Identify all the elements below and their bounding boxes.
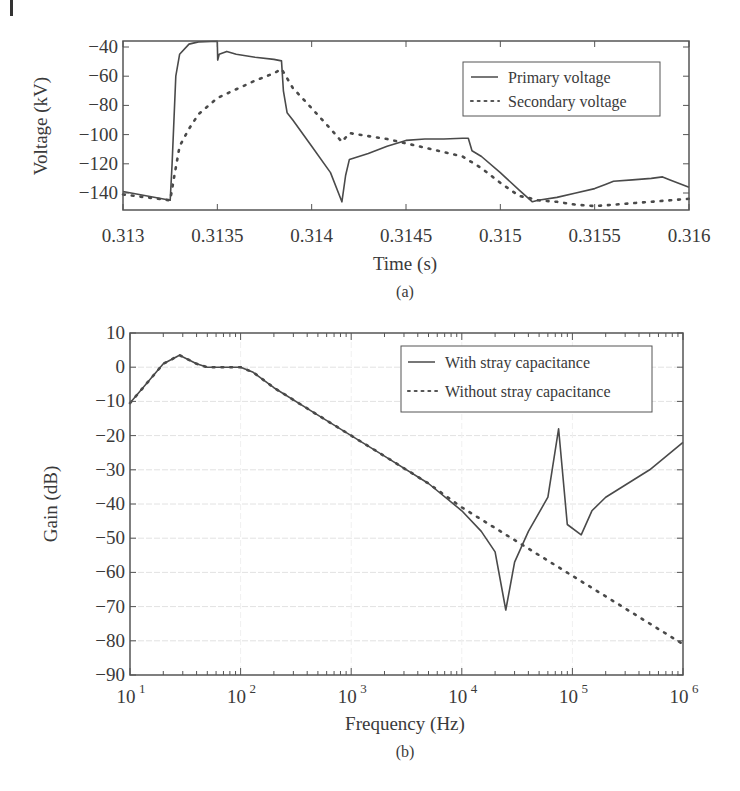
panel-b-x-tick-exponent: 1 bbox=[139, 681, 146, 696]
panel-b-legend: With stray capacitance Without stray cap… bbox=[401, 346, 652, 412]
panel-a-caption: (a) bbox=[396, 283, 414, 301]
panel-b-y-tick-label: −60 bbox=[95, 561, 125, 582]
panel-a-y-tick-label: −60 bbox=[88, 65, 118, 86]
panel-b-x-axis-label: Frequency (Hz) bbox=[345, 713, 465, 735]
legend-with-stray-capacitance: With stray capacitance bbox=[445, 354, 590, 372]
panel-b-x-tick-label: 10 bbox=[117, 686, 136, 707]
legend-primary-voltage: Primary voltage bbox=[508, 69, 611, 87]
figure: 0.3130.31350.3140.31450.3150.31550.316−4… bbox=[0, 0, 740, 791]
panel-b-x-tick-exponent: 5 bbox=[581, 681, 588, 696]
panel-b-y-tick-label: 10 bbox=[106, 322, 125, 343]
panel-b-x-tick-exponent: 2 bbox=[250, 681, 257, 696]
panel-b-y-tick-label: −40 bbox=[95, 493, 125, 514]
panel-a-x-tick-label: 0.3155 bbox=[569, 225, 621, 246]
panel-b-x-tick-exponent: 6 bbox=[692, 681, 699, 696]
panel-b-y-tick-label: 0 bbox=[116, 356, 126, 377]
panel-a-y-tick-label: −140 bbox=[79, 182, 118, 203]
panel-b-x-tick-label: 10 bbox=[448, 686, 467, 707]
panel-b-caption: (b) bbox=[396, 743, 415, 761]
panel-a-x-tick-label: 0.315 bbox=[479, 225, 522, 246]
panel-b-y-tick-label: −80 bbox=[95, 630, 125, 651]
panel-a-x-tick-label: 0.316 bbox=[668, 225, 711, 246]
panel-b-x-tick-exponent: 4 bbox=[471, 681, 478, 696]
panel-a-x-tick-label: 0.3135 bbox=[191, 225, 243, 246]
panel-b-y-tick-label: −10 bbox=[95, 390, 125, 411]
panel-a-y-tick-label: −80 bbox=[88, 94, 118, 115]
panel-b-y-tick-label: −70 bbox=[95, 596, 125, 617]
panel-b-y-tick-label: −90 bbox=[95, 664, 125, 685]
panel-a-x-axis-label: Time (s) bbox=[373, 253, 437, 275]
legend-without-stray-capacitance: Without stray capacitance bbox=[445, 383, 611, 401]
panel-a-x-tick-label: 0.3145 bbox=[380, 225, 432, 246]
panel-b-x-tick-exponent: 3 bbox=[360, 681, 367, 696]
panel-b-y-tick-label: −50 bbox=[95, 527, 125, 548]
panel-a-x-tick-label: 0.313 bbox=[102, 225, 145, 246]
panel-a-y-axis-label: Voltage (kV) bbox=[30, 77, 52, 175]
panel-a-chart: 0.3130.31350.3140.31450.3150.31550.316−4… bbox=[30, 36, 710, 301]
panel-b-y-tick-label: −30 bbox=[95, 459, 125, 480]
panel-a-y-tick-label: −120 bbox=[79, 153, 118, 174]
panel-b-x-tick-label: 10 bbox=[670, 686, 689, 707]
panel-a-x-tick-label: 0.314 bbox=[290, 225, 333, 246]
panel-b-x-tick-label: 10 bbox=[559, 686, 578, 707]
panel-b-chart: 101102103104105106100−10−20−30−40−50−60−… bbox=[40, 322, 699, 761]
panel-a-y-tick-label: −40 bbox=[88, 36, 118, 57]
panel-b-x-tick-label: 10 bbox=[338, 686, 357, 707]
panel-b-y-tick-label: −20 bbox=[95, 425, 125, 446]
panel-a-y-tick-label: −100 bbox=[79, 124, 118, 145]
legend-secondary-voltage: Secondary voltage bbox=[508, 93, 627, 111]
panel-a-legend: Primary voltage Secondary voltage bbox=[463, 62, 660, 116]
panel-b-x-tick-label: 10 bbox=[227, 686, 246, 707]
panel-b-y-axis-label: Gain (dB) bbox=[40, 466, 62, 543]
